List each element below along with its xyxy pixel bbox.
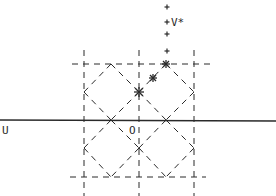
vertical-dashed-lines (84, 50, 194, 196)
origin-label: O (129, 124, 136, 137)
star-icon (162, 60, 170, 68)
plus-markers (165, 5, 170, 54)
v-star-label: V* (171, 16, 184, 29)
u-axis-line (0, 120, 276, 121)
plus-icon (165, 5, 170, 10)
star-icon (149, 74, 157, 82)
lattice-diagram: V* U O (0, 0, 276, 196)
u-axis-label: U (2, 124, 9, 137)
star-icon (134, 87, 144, 97)
plus-icon (165, 49, 170, 54)
plus-icon (165, 20, 170, 25)
plus-icon (165, 32, 170, 37)
